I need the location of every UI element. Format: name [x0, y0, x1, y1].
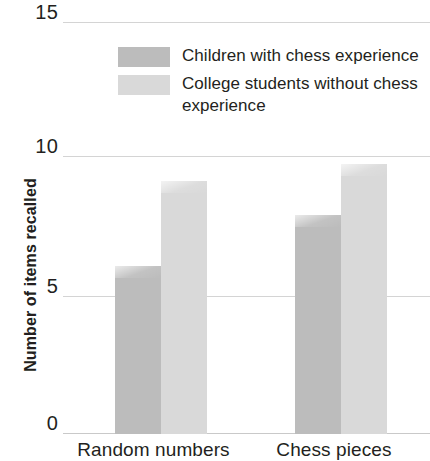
y-tick-15: 15 [18, 2, 58, 22]
x-label-chess-pieces: Chess pieces [244, 438, 424, 461]
legend-label-children: Children with chess experience [182, 45, 419, 67]
legend-swatch-college [118, 75, 170, 95]
bar-chess-pieces-children [295, 215, 341, 434]
legend-label-college: College students without chess experienc… [182, 73, 423, 117]
y-tick-10: 10 [18, 136, 58, 156]
bar-chart: 15 10 5 0 Number of items recalled Rando… [0, 0, 430, 461]
bar-bevel [295, 215, 341, 227]
x-label-random-numbers: Random numbers [63, 438, 244, 461]
y-tick-0: 0 [18, 413, 58, 433]
bar-bevel [161, 181, 207, 193]
chart-legend: Children with chess experience College s… [118, 45, 423, 123]
gridline-10 [63, 156, 430, 157]
gridline-15 [63, 22, 430, 23]
bar-chess-pieces-college [341, 164, 387, 434]
bar-random-numbers-college [161, 181, 207, 434]
bar-bevel [341, 164, 387, 176]
legend-swatch-children [118, 47, 170, 67]
bar-bevel [115, 266, 161, 278]
y-axis-title: Number of items recalled [22, 160, 40, 390]
legend-item-college: College students without chess experienc… [118, 73, 423, 117]
legend-item-children: Children with chess experience [118, 45, 423, 67]
bar-random-numbers-children [115, 266, 161, 434]
